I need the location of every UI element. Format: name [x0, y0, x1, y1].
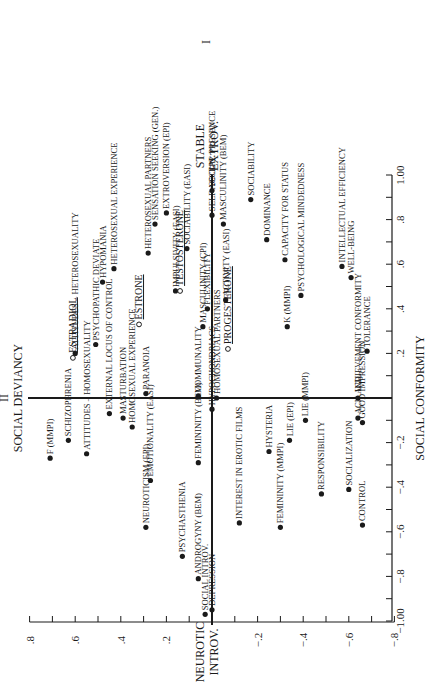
- point-label: PSYCHASTHENIA: [177, 481, 187, 552]
- point-label: ATTITUDES – HOMOSEXUALITY: [82, 320, 92, 449]
- data-point: [285, 324, 290, 329]
- data-point: [209, 407, 214, 412]
- x-tick-label: .6: [394, 260, 406, 269]
- point-label: EXTROVERSION (EPI): [161, 122, 171, 209]
- data-point: [180, 554, 185, 559]
- x-tick-label: −.8: [394, 569, 406, 584]
- point-label: F (MMPI): [45, 418, 55, 454]
- point-label: EMOTIONALITY (EASI): [145, 384, 155, 476]
- point-label: LIE (EPI): [285, 402, 295, 436]
- data-point: [120, 415, 125, 420]
- point-label: MASCULINITY (BEM): [218, 135, 228, 221]
- factor-II-numeral: II: [0, 394, 11, 402]
- data-point: [196, 576, 201, 581]
- factor-I-numeral: I: [199, 40, 213, 44]
- x-tick-label: 1.00: [394, 165, 406, 185]
- hormone-point: [178, 289, 183, 294]
- data-point: [339, 264, 344, 269]
- data-point: [209, 607, 214, 612]
- y-tick-label: .8: [24, 635, 36, 644]
- point-label: HYSTERIA: [264, 404, 274, 447]
- point-label: PSYCHOLOGICAL MINDEDNESS: [296, 162, 306, 291]
- point-label: ANDROGYNY (BEM): [193, 493, 203, 575]
- data-point: [209, 213, 214, 218]
- factor-I-neg-title-line2: INTROV.: [207, 629, 221, 676]
- data-point: [346, 487, 351, 492]
- data-point: [107, 411, 112, 416]
- x-tick-label: −.6: [394, 524, 406, 539]
- x-tick-label: .4: [394, 304, 406, 313]
- data-point: [278, 525, 283, 530]
- data-point: [266, 449, 271, 454]
- data-points: SOCIAL PRESENCEMASCULINITY (BEM)SOCIABIL…: [45, 107, 372, 617]
- y-tick-label: −.2: [252, 633, 264, 647]
- point-label: HYPOCHONDRIACS: [207, 326, 217, 405]
- data-point: [148, 478, 153, 483]
- data-point: [287, 438, 292, 443]
- data-point: [146, 250, 151, 255]
- y-tick-label: .6: [69, 635, 81, 644]
- x-tick-label: .8: [394, 215, 406, 224]
- point-label: EXTERNAL LOCUS OF CONTROL: [104, 278, 114, 409]
- data-point: [196, 460, 201, 465]
- hormone-point: [226, 347, 231, 352]
- point-label: PARANOIA: [141, 345, 151, 389]
- point-label: FEMININITY (MMPI): [275, 443, 285, 524]
- data-point: [248, 197, 253, 202]
- data-point: [93, 342, 98, 347]
- data-point: [164, 210, 169, 215]
- data-point: [264, 237, 269, 242]
- point-label: SCHIZOPHRENIA: [63, 367, 73, 436]
- data-point: [360, 523, 365, 528]
- x-axis-title: SOCIAL CONFORMITY: [413, 335, 427, 461]
- point-label: INTEREST IN EROTIC FILMS: [234, 406, 244, 518]
- point-label: SOCIABILITY: [246, 142, 256, 196]
- data-point: [48, 456, 53, 461]
- data-point: [298, 293, 303, 298]
- x-tick-label: −1.00: [394, 608, 406, 634]
- factor-I-pos-title-line1: STABLE: [193, 124, 207, 168]
- data-point: [143, 525, 148, 530]
- point-label: HOMOSEXUAL EXPERIENCE: [127, 308, 137, 423]
- data-point: [360, 420, 365, 425]
- data-point: [237, 520, 242, 525]
- x-tick-label: .2: [394, 349, 406, 357]
- data-point: [221, 221, 226, 226]
- hormone-label: ESTRONE: [133, 274, 144, 319]
- factor-I-neg-title-line1: NEUROTIC: [193, 622, 207, 683]
- point-label: FEMININITY (BEM): [193, 382, 203, 458]
- factor-II-title: SOCIAL DEVIANCY: [11, 343, 25, 452]
- hormone-point: [71, 355, 76, 360]
- point-label: LIE (MMPI): [300, 372, 310, 416]
- x-tick-label: −.4: [394, 479, 406, 494]
- data-point: [203, 612, 208, 617]
- data-point: [130, 424, 135, 429]
- point-label: PSYCHOPATHIC DEVIATE: [91, 239, 101, 341]
- x-tick-label: −.2: [394, 435, 406, 449]
- data-point: [84, 451, 89, 456]
- hormone-point: [137, 322, 142, 327]
- y-tick-label: −.4: [297, 632, 309, 647]
- data-point: [184, 246, 189, 251]
- point-label: DOMINANCE: [262, 183, 272, 236]
- point-label: SELF ACCEPT.: [207, 155, 217, 211]
- data-point: [319, 491, 324, 496]
- data-point: [303, 418, 308, 423]
- point-label: CAPACITY FOR STATUS: [280, 162, 290, 256]
- point-label: RESPONSIBILITY: [316, 421, 326, 490]
- data-point: [66, 438, 71, 443]
- point-label: K (MMPI): [282, 286, 292, 323]
- data-point: [282, 257, 287, 262]
- point-label: SOCIALIZATION: [344, 420, 354, 486]
- data-point: [152, 221, 157, 226]
- point-label: COMMUNALITY: [193, 326, 203, 391]
- point-label: TOLERANCE: [362, 296, 372, 347]
- point-label: HETEROSEXUAL EXPERIENCE: [109, 143, 119, 265]
- y-tick-label: −.6: [343, 632, 355, 647]
- y-tick-label: .2: [160, 636, 172, 644]
- factor-chart: .8.6.4.2−.2−.4−.6−.8−1.00−.8−.6−.4−.2.2.…: [0, 0, 439, 689]
- hormone-label: TESTOSTERONE: [174, 210, 185, 286]
- point-label: HETEROSEXUAL PARTNERS: [143, 137, 153, 249]
- point-label: CONTROL: [357, 481, 367, 522]
- point-label: WELL-BEING: [346, 221, 356, 274]
